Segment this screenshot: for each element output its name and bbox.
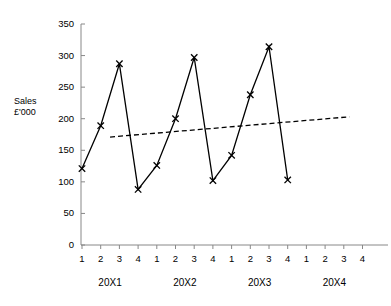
axis-lines bbox=[81, 24, 388, 245]
sales-data-markers bbox=[79, 44, 291, 193]
y-axis-ticks bbox=[81, 24, 85, 245]
x-axis-ticks bbox=[82, 245, 363, 249]
sales-trend-chart: Sales£'000 050100150200250300350 1234123… bbox=[0, 0, 391, 306]
plot-area bbox=[0, 0, 391, 306]
sales-data-line bbox=[82, 47, 288, 190]
trend-line bbox=[110, 117, 349, 137]
